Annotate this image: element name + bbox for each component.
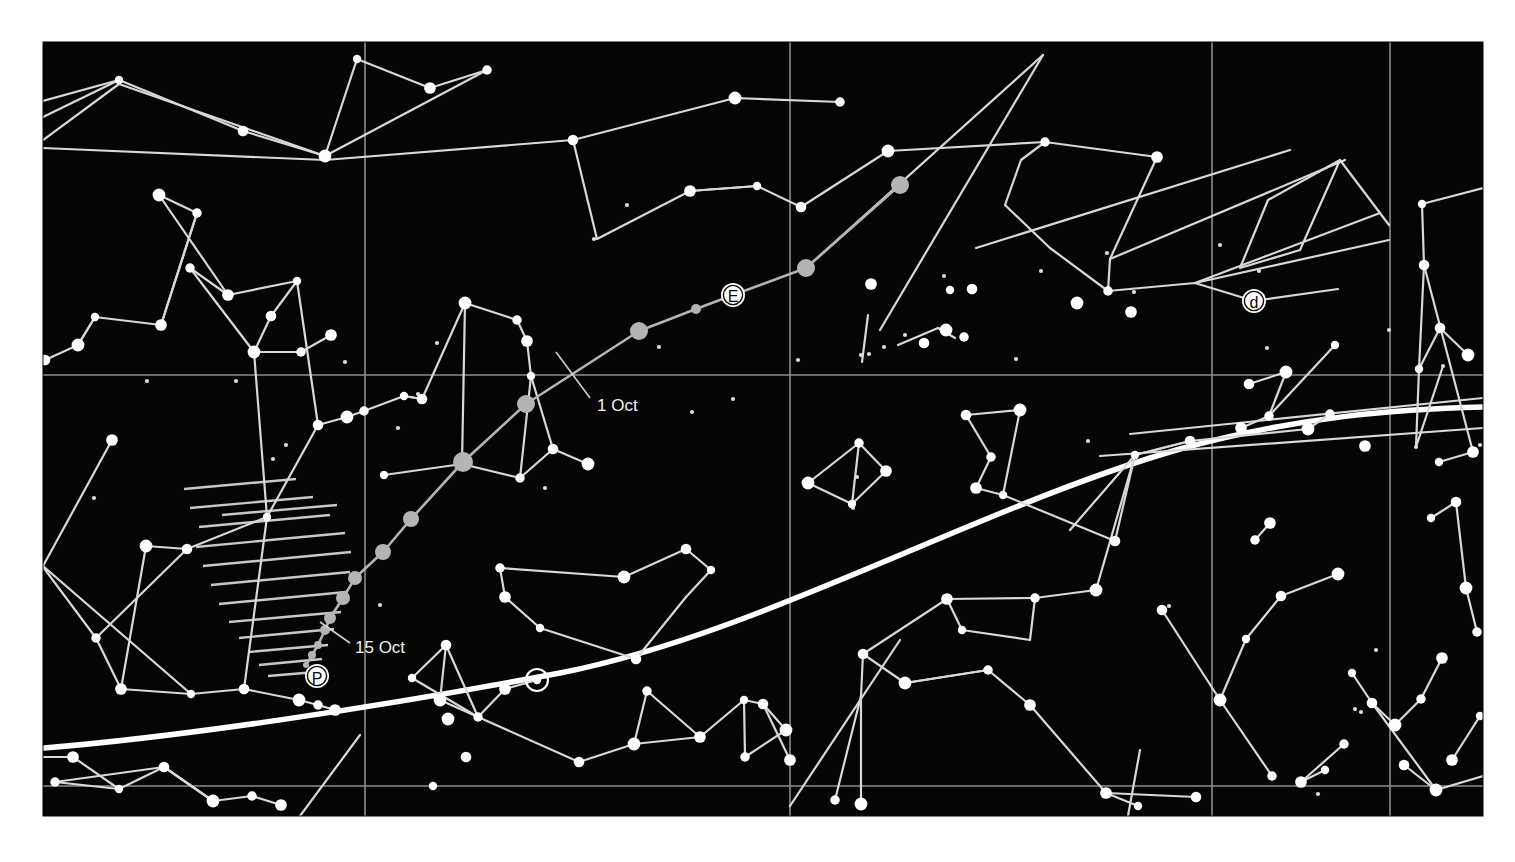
star	[359, 406, 369, 416]
star	[1418, 200, 1426, 208]
star	[740, 752, 750, 762]
star-faint	[1105, 251, 1109, 255]
star	[631, 654, 642, 665]
star	[248, 346, 261, 359]
star	[1100, 787, 1112, 799]
star	[266, 311, 277, 322]
star	[1348, 669, 1356, 677]
star-faint	[234, 379, 238, 383]
planet-position-dot	[403, 511, 419, 527]
star	[159, 762, 170, 773]
star-faint	[1014, 357, 1018, 361]
star	[1399, 760, 1410, 771]
marker-E[interactable]: E	[721, 283, 745, 307]
star	[1415, 365, 1423, 373]
star-faint	[1359, 710, 1363, 714]
star	[1235, 422, 1247, 434]
star	[275, 799, 287, 811]
star	[707, 566, 715, 574]
star-faint	[855, 475, 859, 479]
star-faint	[731, 397, 735, 401]
sun-icon-center	[534, 677, 540, 683]
star-faint	[942, 274, 946, 278]
star	[1267, 771, 1277, 781]
star-faint	[1387, 328, 1391, 332]
star	[238, 126, 249, 137]
star-faint	[592, 237, 596, 241]
star	[325, 329, 337, 341]
star-faint	[1167, 604, 1171, 608]
star	[574, 757, 585, 768]
star	[967, 284, 978, 295]
star	[983, 665, 993, 675]
star-faint	[1316, 792, 1320, 796]
marker-d-letter: d	[1250, 294, 1259, 311]
star	[729, 92, 742, 105]
star	[796, 202, 807, 213]
star	[854, 438, 864, 448]
star	[1367, 698, 1378, 709]
star-faint	[343, 360, 347, 364]
star	[835, 97, 845, 107]
planet-position-dot	[348, 571, 362, 585]
star	[1389, 719, 1402, 732]
star	[1151, 151, 1163, 163]
star-faint	[378, 603, 382, 607]
star	[1264, 411, 1274, 421]
planet-position-dot	[517, 395, 535, 413]
star	[1339, 739, 1349, 749]
star	[527, 372, 535, 380]
star	[1325, 409, 1335, 419]
star-faint	[1132, 290, 1136, 294]
star	[222, 289, 234, 301]
planet-position-dot	[375, 544, 391, 560]
star-faint	[1478, 443, 1482, 447]
star-faint	[690, 410, 694, 414]
star	[459, 297, 472, 310]
star	[1040, 137, 1050, 147]
star-faint	[145, 379, 149, 383]
star	[1030, 593, 1040, 603]
star	[417, 394, 428, 405]
star	[1435, 323, 1446, 334]
marker-P[interactable]: P	[305, 664, 329, 688]
date-label-15-oct: 15 Oct	[355, 638, 405, 657]
star	[140, 540, 153, 553]
star	[192, 208, 202, 218]
star	[1472, 627, 1482, 637]
star	[187, 690, 195, 698]
star	[482, 65, 492, 75]
star-faint	[1086, 439, 1090, 443]
star	[548, 444, 559, 455]
star	[495, 563, 505, 573]
star-faint	[284, 443, 288, 447]
star	[293, 694, 306, 707]
star	[434, 694, 447, 707]
star	[341, 411, 354, 424]
star	[1214, 694, 1227, 707]
planet-position-dot	[324, 612, 336, 624]
star	[1185, 436, 1196, 447]
star	[185, 263, 195, 273]
star	[499, 683, 511, 695]
star	[400, 392, 408, 400]
marker-d[interactable]: d	[1242, 289, 1266, 313]
star	[1110, 536, 1121, 547]
star	[568, 135, 579, 146]
star	[1331, 341, 1339, 349]
star	[946, 286, 954, 294]
star	[512, 315, 522, 325]
star-faint	[1374, 648, 1378, 652]
star	[1467, 446, 1479, 458]
star	[986, 452, 996, 462]
star-faint	[435, 341, 439, 345]
star	[999, 491, 1007, 499]
star	[1295, 776, 1307, 788]
star	[115, 785, 123, 793]
star	[1446, 754, 1458, 766]
planet-position-dot	[797, 259, 815, 277]
star	[91, 633, 101, 643]
marker-P-letter: P	[312, 670, 323, 687]
star	[72, 339, 85, 352]
star	[1103, 286, 1113, 296]
